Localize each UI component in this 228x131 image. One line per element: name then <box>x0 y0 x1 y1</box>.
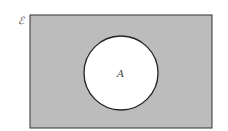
venn-diagram: ℰ A <box>0 0 228 131</box>
set-a-label: A <box>116 68 124 79</box>
universal-set-label: ℰ <box>18 15 25 26</box>
